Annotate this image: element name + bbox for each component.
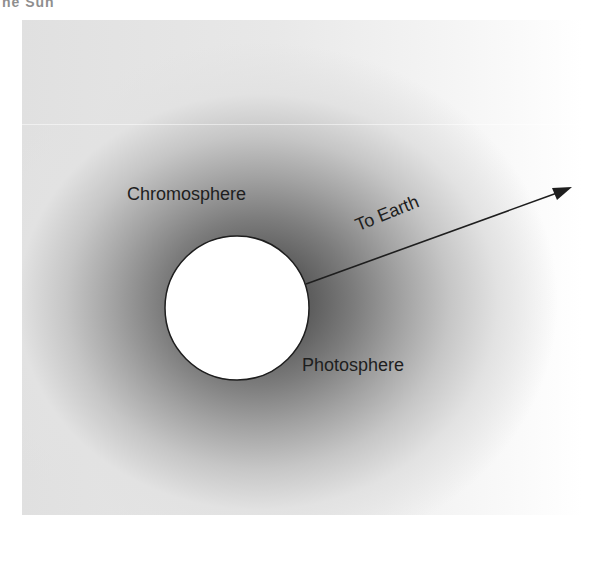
arrow-head-icon: [552, 187, 572, 200]
chromosphere-label: Chromosphere: [127, 184, 246, 205]
photosphere-circle: [165, 236, 309, 380]
to-earth-arrow-line: [306, 193, 557, 284]
photosphere-label: Photosphere: [302, 355, 404, 376]
diagram-overlay: [0, 0, 603, 569]
